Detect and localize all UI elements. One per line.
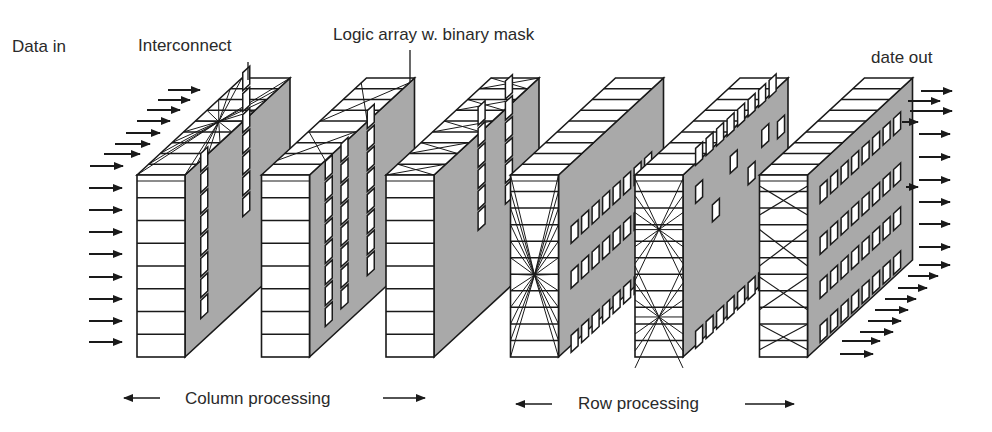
processing-direction-arrows: [124, 398, 794, 404]
slabs: [137, 66, 913, 368]
processing-pipeline-diagram: [0, 0, 992, 432]
